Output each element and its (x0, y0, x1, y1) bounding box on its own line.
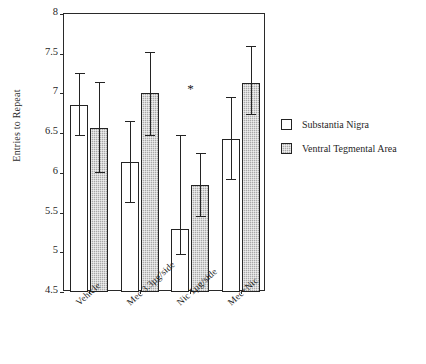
error-bar-stem (150, 52, 151, 136)
error-bar-cap-upper (75, 73, 85, 74)
error-bar-cap-upper (95, 82, 105, 83)
y-axis-tick-label: 5 (24, 245, 58, 256)
y-axis-tick-label: 7.5 (24, 47, 58, 58)
error-bar-stem (231, 97, 232, 180)
error-bar-cap-lower (125, 202, 135, 203)
legend-swatch-gray-stipple-square (281, 143, 292, 154)
error-bar-cap-lower (196, 216, 206, 217)
legend-label: Ventral Tegmental Area (302, 143, 397, 154)
error-bar-stem (99, 82, 100, 173)
legend-swatch-white-square (281, 119, 292, 130)
error-bar-stem (130, 121, 131, 203)
error-bar-cap-lower (226, 179, 236, 180)
y-axis-tick-mark (60, 133, 64, 134)
error-bar-stem (79, 73, 80, 137)
y-axis-tick-label: 4.5 (24, 285, 58, 296)
y-axis-tick-mark (60, 54, 64, 55)
plot-area: * (63, 13, 265, 291)
legend-item-substantia-nigra: Substantia Nigra (281, 119, 397, 130)
error-bar-stem (180, 135, 181, 255)
y-axis-tick-label: 6.5 (24, 126, 58, 137)
y-axis-tick-label: 7 (24, 86, 58, 97)
legend-item-ventral-tegmental-area: Ventral Tegmental Area (281, 143, 397, 154)
y-axis-tick-mark (60, 252, 64, 253)
y-axis-tick-label: 5.5 (24, 206, 58, 217)
y-axis-tick-mark (60, 213, 64, 214)
error-bar-cap-lower (145, 135, 155, 136)
legend: Substantia Nigra Ventral Tegmental Area (281, 119, 397, 167)
y-axis-tick-mark (60, 173, 64, 174)
significance-marker: * (187, 82, 194, 95)
y-axis-tick-label: 6 (24, 166, 58, 177)
error-bar-cap-lower (246, 114, 256, 115)
error-bar-cap-upper (176, 135, 186, 136)
error-bar-cap-upper (246, 46, 256, 47)
y-axis-tick-labels: 4.555.566.577.58 (22, 0, 58, 364)
y-axis-label: Entries to Repeat (11, 56, 22, 196)
error-bar-stem (200, 153, 201, 217)
error-bar-cap-upper (125, 121, 135, 122)
bar-chart-figure: Entries to Repeat 4.555.566.577.58 * Veh… (0, 0, 426, 364)
y-axis-tick-mark (60, 292, 64, 293)
error-bar-stem (251, 46, 252, 115)
error-bar-cap-upper (226, 97, 236, 98)
error-bar-cap-upper (196, 153, 206, 154)
legend-label: Substantia Nigra (302, 119, 369, 130)
y-axis-tick-label: 8 (24, 7, 58, 18)
y-axis-tick-mark (60, 14, 64, 15)
error-bar-cap-lower (176, 254, 186, 255)
y-axis-tick-mark (60, 93, 64, 94)
error-bar-cap-lower (75, 135, 85, 136)
error-bar-cap-upper (145, 52, 155, 53)
error-bar-cap-lower (95, 172, 105, 173)
